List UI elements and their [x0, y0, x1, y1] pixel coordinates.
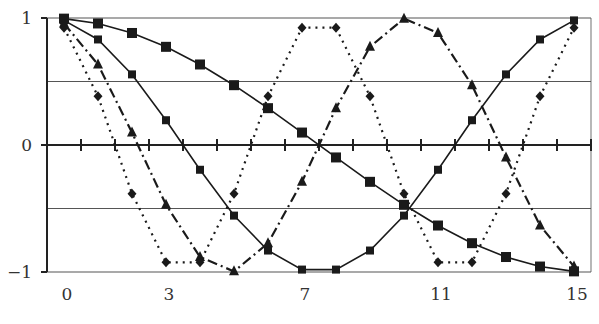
triangle-marker-icon	[297, 176, 307, 186]
triangle-marker-icon	[127, 127, 137, 137]
y-tick-label: −1	[7, 262, 32, 282]
square-marker-icon	[467, 238, 477, 248]
square-marker-icon	[502, 70, 510, 78]
square-marker-icon	[162, 116, 170, 124]
square-marker-icon	[298, 266, 306, 274]
square-marker-icon	[128, 70, 136, 78]
square-marker-icon	[434, 166, 442, 174]
square-marker-icon	[195, 59, 205, 69]
square-marker-icon	[468, 116, 476, 124]
diamond-marker-icon	[434, 257, 443, 267]
square-marker-icon	[264, 247, 272, 255]
y-tick-label: 0	[21, 135, 32, 155]
diamond-marker-icon	[230, 189, 239, 199]
diamond-marker-icon	[162, 257, 171, 267]
square-marker-icon	[93, 18, 103, 28]
triangle-marker-icon	[535, 220, 545, 230]
x-tick-label: 7	[300, 284, 311, 304]
square-marker-icon	[365, 177, 375, 187]
diamond-marker-icon	[468, 257, 477, 267]
square-marker-icon	[263, 103, 273, 113]
triangle-marker-icon	[467, 79, 477, 89]
diamond-marker-icon	[502, 189, 511, 199]
diamond-marker-icon	[536, 91, 545, 101]
square-marker-icon	[161, 42, 171, 52]
triangle-marker-icon	[433, 27, 443, 37]
triangle-marker-icon	[263, 237, 273, 247]
diamond-marker-icon	[264, 91, 273, 101]
square-marker-icon	[433, 221, 443, 231]
dct-basis-line-chart: 037111510−1	[0, 0, 599, 324]
square-marker-icon	[501, 252, 511, 262]
x-tick-label: 0	[62, 284, 73, 304]
square-marker-icon	[400, 212, 408, 220]
triangle-marker-icon	[365, 41, 375, 51]
diamond-marker-icon	[400, 189, 409, 199]
diamond-marker-icon	[128, 189, 137, 199]
triangle-marker-icon	[161, 199, 171, 209]
square-marker-icon	[332, 266, 340, 274]
square-marker-icon	[94, 35, 102, 43]
diamond-marker-icon	[94, 91, 103, 101]
square-marker-icon	[229, 80, 239, 90]
square-marker-icon	[196, 166, 204, 174]
series-k3	[59, 13, 579, 276]
square-marker-icon	[297, 128, 307, 138]
square-marker-icon	[399, 200, 409, 210]
series-lines	[59, 13, 579, 277]
tick-labels: 037111510−1	[7, 8, 588, 304]
square-marker-icon	[536, 35, 544, 43]
square-marker-icon	[127, 28, 137, 38]
y-tick-label: 1	[21, 8, 32, 28]
diamond-marker-icon	[298, 23, 307, 33]
square-marker-icon	[230, 212, 238, 220]
diamond-marker-icon	[366, 91, 375, 101]
diamond-marker-icon	[332, 23, 341, 33]
triangle-marker-icon	[501, 151, 511, 161]
square-marker-icon	[366, 247, 374, 255]
square-marker-icon	[535, 262, 545, 272]
x-tick-label: 11	[430, 284, 452, 304]
square-marker-icon	[331, 152, 341, 162]
x-tick-label: 15	[566, 284, 588, 304]
x-tick-label: 3	[164, 284, 175, 304]
